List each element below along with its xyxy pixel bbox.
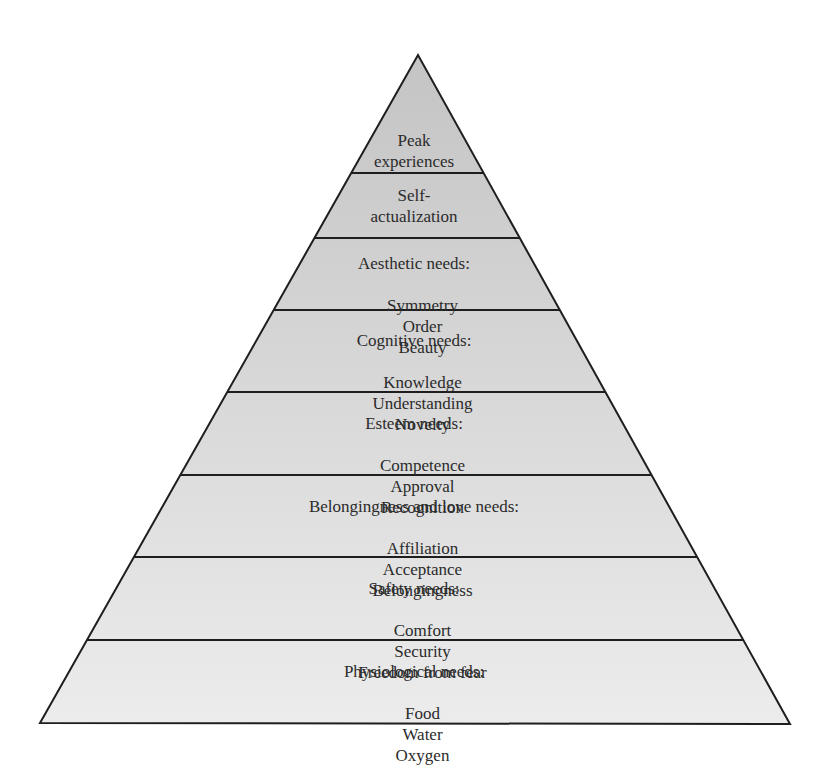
tier-item: Comfort [394,620,452,641]
tier-physiological-needs: Physiological needs: Food Water Oxygen [0,661,828,769]
tier-title: Physiological needs: [0,661,828,682]
tier-item: Water [402,724,442,745]
tier-items: Food Water Oxygen [0,682,828,769]
tier-title: Cognitive needs: [0,330,828,351]
tier-item: Security [394,641,451,662]
tier-self-actualization: Self- actualization [0,185,828,227]
tier-title: Aesthetic needs: [0,253,828,274]
tier-item: Oxygen [396,745,450,766]
tier-title: Peak [0,130,828,151]
tier-title-line2: actualization [0,206,828,227]
tier-title: Safety needs: [0,578,828,599]
tier-item: Knowledge [383,372,461,393]
tier-item: Symmetry [387,295,458,316]
tier-item: Food [405,703,440,724]
tier-title: Belongingness and love needs: [0,496,828,517]
tier-title-line2: experiences [0,151,828,172]
tier-item: Affiliation [387,538,458,559]
tier-item: Acceptance [383,559,462,580]
tier-peak-experiences: Peak experiences [0,130,828,172]
tier-item: Competence [380,455,465,476]
tier-title: Esteem needs: [0,413,828,434]
tier-title: Self- [0,185,828,206]
tier-item: Understanding [372,393,472,414]
tier-item: Approval [390,476,454,497]
